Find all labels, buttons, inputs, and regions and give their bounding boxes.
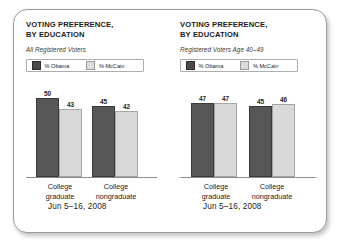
bar-obama-college-graduate: 50 (36, 90, 59, 178)
dark-gray-swatch-icon (186, 61, 195, 70)
chart-title: VOTING PREFERENCE, BY EDUCATION (180, 20, 316, 39)
legend-item-mccain: % McCain (240, 61, 278, 70)
bar-value: 46 (280, 96, 287, 103)
bar-group-college-graduate: 47 47 (191, 95, 237, 178)
chart-panels: VOTING PREFERENCE, BY EDUCATION All Regi… (14, 10, 326, 232)
bar-rect (115, 111, 138, 177)
bar-obama-college-nongraduate: 45 (249, 98, 272, 178)
legend-item-mccain: % McCain (86, 61, 124, 70)
bar-rect (36, 98, 59, 177)
bar-value: 45 (100, 98, 107, 105)
category-label-college-graduate: College graduate (186, 182, 246, 201)
plot-area: 47 47 45 46 (180, 83, 316, 178)
legend-label-obama: % Obama (45, 63, 70, 69)
plot-area: 50 43 45 42 (26, 83, 160, 178)
bar-value: 50 (44, 90, 51, 97)
legend-label-mccain: % McCain (99, 63, 125, 69)
legend-label-mccain: % McCain (253, 63, 279, 69)
bar-rect (191, 103, 214, 177)
chart-panel-all-registered-voters: VOTING PREFERENCE, BY EDUCATION All Regi… (14, 10, 170, 232)
chart-title: VOTING PREFERENCE, BY EDUCATION (26, 20, 160, 39)
bar-rect (92, 106, 115, 177)
chart-card: VOTING PREFERENCE, BY EDUCATION All Regi… (13, 9, 327, 233)
category-label-college-nongraduate: College nongraduate (238, 182, 306, 201)
date-range-label: Jun 5–16, 2008 (203, 202, 262, 211)
axis-baseline (26, 177, 157, 178)
bar-rect (249, 106, 272, 177)
bar-mccain-college-nongraduate: 46 (272, 96, 295, 178)
chart-panel-registered-voters-age-40-49: VOTING PREFERENCE, BY EDUCATION Register… (170, 10, 326, 232)
dark-gray-swatch-icon (32, 61, 41, 70)
bar-value: 47 (222, 95, 229, 102)
chart-subtitle: Registered Voters Age 40–49 (180, 46, 316, 53)
bar-value: 45 (257, 98, 264, 105)
bar-group-college-graduate: 50 43 (36, 90, 82, 178)
bar-rect (272, 104, 295, 177)
light-gray-swatch-icon (240, 61, 249, 70)
bar-obama-college-nongraduate: 45 (92, 98, 115, 178)
chart-legend: % Obama % McCain (180, 59, 298, 72)
legend-label-obama: % Obama (199, 63, 224, 69)
screenshot-root: VOTING PREFERENCE, BY EDUCATION All Regi… (0, 0, 341, 252)
bar-rect (59, 109, 82, 177)
chart-subtitle: All Registered Voters (26, 46, 160, 53)
axis-baseline (180, 177, 316, 178)
legend-item-obama: % Obama (186, 61, 223, 70)
bar-value: 43 (67, 101, 74, 108)
bar-value: 42 (123, 103, 130, 110)
bar-value: 47 (199, 95, 206, 102)
bar-mccain-college-graduate: 43 (59, 101, 82, 178)
bar-group-college-nongraduate: 45 46 (249, 96, 295, 178)
bar-mccain-college-nongraduate: 42 (115, 103, 138, 178)
light-gray-swatch-icon (86, 61, 95, 70)
bar-mccain-college-graduate: 47 (214, 95, 237, 178)
category-label-college-graduate: College graduate (30, 182, 90, 201)
category-label-college-nongraduate: College nongraduate (82, 182, 150, 201)
date-range-label: Jun 5–16, 2008 (48, 202, 107, 211)
bar-obama-college-graduate: 47 (191, 95, 214, 178)
chart-legend: % Obama % McCain (26, 59, 144, 72)
bar-group-college-nongraduate: 45 42 (92, 98, 138, 178)
legend-item-obama: % Obama (32, 61, 69, 70)
bar-rect (214, 103, 237, 177)
